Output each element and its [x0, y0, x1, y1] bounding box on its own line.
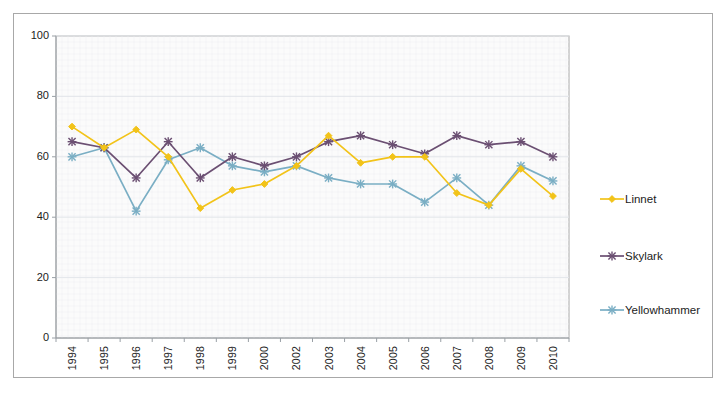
legend-item-linnet[interactable]: Linnet [599, 192, 656, 206]
legend-label-yellowhammer: Yellowhammer [625, 304, 700, 316]
legend-item-yellowhammer[interactable]: Yellowhammer [599, 303, 700, 317]
plot-area-background [56, 36, 569, 338]
legend-label-skylark: Skylark [625, 250, 663, 262]
data-point-yellowhammer-2010 [549, 177, 558, 186]
data-point-skylark-2000 [260, 161, 269, 170]
legend-swatch-skylark-icon [599, 249, 625, 263]
y-tick-label-20: 20 [15, 271, 49, 283]
data-point-skylark-1996 [132, 174, 141, 183]
x-tick-label-2009: 2009 [515, 346, 527, 370]
data-point-skylark-2009 [517, 137, 526, 146]
x-tick-label-1999: 1999 [226, 346, 238, 370]
x-tick-label-2005: 2005 [387, 346, 399, 370]
legend-marker-yellowhammer [608, 306, 617, 315]
legend-marker-linnet [609, 196, 616, 203]
x-tick-label-1997: 1997 [162, 346, 174, 370]
chart-figure: 020406080100 199419951996199719981999200… [13, 13, 713, 378]
x-tick-label-1994: 1994 [66, 346, 78, 370]
data-point-yellowhammer-2006 [420, 198, 429, 207]
data-point-yellowhammer-1999 [228, 161, 237, 170]
legend-swatch-linnet-icon [599, 192, 625, 206]
x-tick-label-2000: 2000 [258, 346, 270, 370]
x-axis-ticks [56, 338, 569, 342]
x-tick-label-2002: 2002 [290, 346, 302, 370]
x-tick-label-2008: 2008 [483, 346, 495, 370]
x-tick-label-2006: 2006 [419, 346, 431, 370]
data-point-skylark-2002 [292, 152, 301, 161]
data-point-skylark-2005 [388, 140, 397, 149]
data-point-yellowhammer-2003 [324, 174, 333, 183]
x-tick-label-2003: 2003 [323, 346, 335, 370]
data-point-skylark-2010 [549, 152, 558, 161]
x-tick-label-2004: 2004 [355, 346, 367, 370]
x-tick-label-2010: 2010 [547, 346, 559, 370]
data-point-skylark-2004 [356, 131, 365, 140]
data-point-yellowhammer-2007 [452, 174, 461, 183]
data-point-skylark-2008 [484, 140, 493, 149]
x-tick-label-1995: 1995 [98, 346, 110, 370]
data-point-yellowhammer-2004 [356, 180, 365, 189]
data-point-yellowhammer-2005 [388, 180, 397, 189]
data-point-yellowhammer-1998 [196, 143, 205, 152]
x-tick-label-2007: 2007 [451, 346, 463, 370]
y-tick-label-60: 60 [15, 150, 49, 162]
data-point-skylark-1997 [164, 137, 173, 146]
y-tick-label-100: 100 [15, 29, 49, 41]
data-point-yellowhammer-1994 [68, 152, 77, 161]
legend-item-skylark[interactable]: Skylark [599, 249, 663, 263]
data-point-skylark-2007 [452, 131, 461, 140]
data-point-yellowhammer-1996 [132, 207, 141, 216]
y-tick-label-80: 80 [15, 89, 49, 101]
y-tick-label-40: 40 [15, 210, 49, 222]
legend-swatch-yellowhammer-icon [599, 303, 625, 317]
y-tick-label-0: 0 [15, 331, 49, 343]
data-point-skylark-1999 [228, 152, 237, 161]
legend-label-linnet: Linnet [625, 193, 656, 205]
x-tick-label-1996: 1996 [130, 346, 142, 370]
x-tick-label-1998: 1998 [194, 346, 206, 370]
y-axis-ticks [52, 36, 56, 338]
legend-marker-skylark [608, 252, 617, 261]
data-point-skylark-1994 [68, 137, 77, 146]
data-point-skylark-1998 [196, 174, 205, 183]
